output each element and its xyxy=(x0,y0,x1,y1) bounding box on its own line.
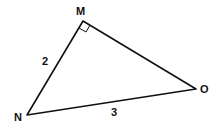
triangle-diagram: M N O 2 3 xyxy=(0,0,219,124)
vertex-label-m: M xyxy=(76,5,85,17)
side-label-mn: 2 xyxy=(42,55,48,67)
side-label-no: 3 xyxy=(111,106,117,118)
vertex-label-n: N xyxy=(14,111,22,123)
triangle-mno xyxy=(27,21,196,115)
vertex-label-o: O xyxy=(200,83,209,95)
